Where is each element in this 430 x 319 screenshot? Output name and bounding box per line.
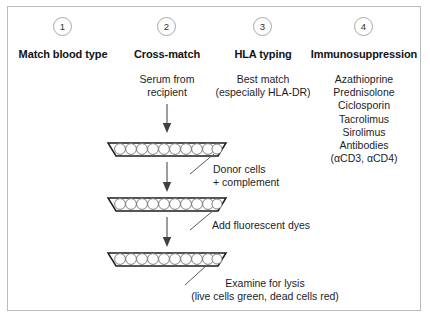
column-number-4: 4 xyxy=(354,17,373,36)
annotation-donor-cells-line-1: Donor cells xyxy=(213,163,279,176)
arrow-down-3 xyxy=(160,217,174,247)
annotation-donor-cells-line-2: + complement xyxy=(213,176,279,189)
column-number-2-label: 2 xyxy=(164,21,169,32)
arrow-down-1 xyxy=(160,104,174,134)
drug-item-tacrolimus: Tacrolimus xyxy=(300,113,428,126)
column-number-3: 3 xyxy=(253,17,272,36)
drug-item-ciclosporin: Ciclosporin xyxy=(300,99,428,112)
annotation-examine-lysis-line-2: (live cells green, dead cells red) xyxy=(140,290,390,303)
drug-item-antibodies-detail: (αCD3, αCD4) xyxy=(300,152,428,165)
annotation-examine-lysis-line-1: Examine for lysis xyxy=(140,277,390,290)
column-number-4-label: 4 xyxy=(361,21,366,32)
column-number-1: 1 xyxy=(53,17,72,36)
drug-item-azathioprine: Azathioprine xyxy=(300,73,428,86)
drug-item-sirolimus: Sirolimus xyxy=(300,126,428,139)
column-number-3-label: 3 xyxy=(260,21,265,32)
column-number-1-label: 1 xyxy=(60,21,65,32)
annotation-examine-lysis: Examine for lysis (live cells green, dea… xyxy=(140,277,390,303)
figure-root: 1 Match blood type 2 Cross-match Serum f… xyxy=(0,0,430,319)
arrow-down-2 xyxy=(160,162,174,192)
column-number-2: 2 xyxy=(157,17,176,36)
drug-item-antibodies: Antibodies xyxy=(300,139,428,152)
column-heading-immunosuppression: Immunosuppression xyxy=(300,48,428,60)
annotation-donor-cells: Donor cells + complement xyxy=(213,163,279,189)
annotation-fluorescent-dyes: Add fluorescent dyes xyxy=(212,219,310,232)
column-body-immunosuppression: Azathioprine Prednisolone Ciclosporin Ta… xyxy=(300,73,428,165)
drug-item-prednisolone: Prednisolone xyxy=(300,86,428,99)
